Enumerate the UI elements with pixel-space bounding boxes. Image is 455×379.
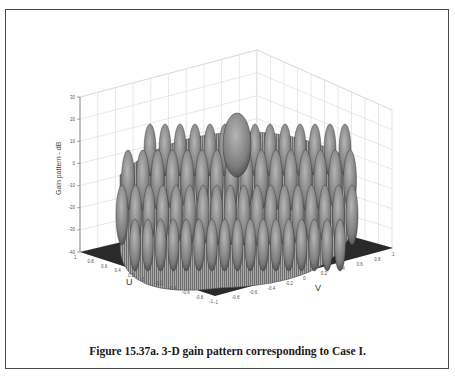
svg-text:-0.6: -0.6 — [182, 290, 190, 295]
svg-text:0.8: 0.8 — [88, 259, 95, 264]
v-axis-label: V — [315, 283, 321, 293]
svg-text:0.2: 0.2 — [321, 271, 328, 276]
svg-text:0: 0 — [72, 161, 75, 166]
svg-text:-0.8: -0.8 — [196, 295, 204, 300]
svg-text:-0.2: -0.2 — [285, 281, 293, 286]
z-axis: 3020100-10-20-30-40 — [68, 95, 80, 255]
svg-text:0.8: 0.8 — [374, 257, 381, 262]
svg-text:-10: -10 — [68, 183, 75, 188]
svg-text:10: 10 — [70, 139, 76, 144]
svg-text:-0.4: -0.4 — [267, 286, 275, 291]
main-lobe — [223, 113, 251, 177]
svg-text:1: 1 — [392, 252, 395, 257]
svg-text:0.6: 0.6 — [356, 262, 363, 267]
svg-text:-0.8: -0.8 — [232, 295, 240, 300]
svg-text:0.6: 0.6 — [101, 264, 108, 269]
gain-pattern-3d-plot: 3020100-10-20-30-40 10.80.60.40.20-0.2-0… — [0, 0, 455, 379]
u-axis-label: U — [126, 277, 133, 287]
svg-text:-0.2: -0.2 — [155, 281, 163, 286]
svg-text:20: 20 — [70, 117, 76, 122]
svg-text:-1: -1 — [209, 299, 213, 304]
z-axis-label: Gain pattern - dB — [55, 141, 63, 195]
svg-text:-0.4: -0.4 — [169, 286, 177, 291]
svg-text:-30: -30 — [68, 227, 75, 232]
svg-text:0.4: 0.4 — [115, 268, 122, 273]
svg-text:-20: -20 — [68, 205, 75, 210]
svg-text:1: 1 — [74, 255, 77, 260]
svg-text:30: 30 — [70, 95, 76, 100]
svg-text:-1: -1 — [214, 300, 218, 305]
svg-text:-0.6: -0.6 — [250, 290, 258, 295]
svg-text:-40: -40 — [68, 250, 75, 255]
svg-text:0: 0 — [303, 276, 306, 281]
svg-text:0.4: 0.4 — [339, 266, 346, 271]
figure-caption: Figure 15.37a. 3-D gain pattern correspo… — [0, 345, 455, 357]
